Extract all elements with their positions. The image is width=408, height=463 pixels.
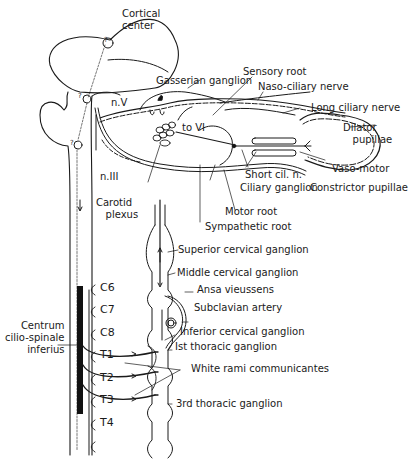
label-carotid-plexus: Carotid plexus: [96, 197, 138, 221]
segment-t2: T2: [100, 372, 114, 383]
label-n-v: n.V: [111, 98, 127, 108]
segment-t4: T4: [100, 417, 114, 428]
oculomotor-nerve-n-iii-inner: [98, 108, 306, 171]
hypothalamic-neuron: [83, 95, 91, 103]
label-long-ciliary-nerve: Long ciliary nerve: [311, 103, 400, 113]
label-constrictor-pupillae: Constrictor pupillae: [310, 183, 408, 193]
sympathetic-to-ciliary: [176, 132, 235, 145]
sulcus-line: [108, 59, 168, 72]
naso-ciliary-nerve-line: [220, 92, 310, 103]
label-centrum-cilio-spinale: Centrum cilio-spinale inferius: [5, 320, 64, 356]
label-to-vi: to VI: [182, 123, 205, 133]
segment-c8: C8: [100, 327, 115, 338]
label-sensory-root: Sensory root: [243, 67, 306, 77]
label-third-thoracic-ganglion: 3rd thoracic ganglion: [176, 399, 283, 409]
cortical-tract-upper: [88, 45, 105, 98]
label-gasserian-ganglion: Gasserian ganglion: [156, 76, 252, 86]
label-inferior-cervical-ganglion: Inferior cervical ganglion: [180, 327, 304, 337]
segment-c7: C7: [100, 304, 115, 315]
segment-t1: T1: [100, 349, 114, 360]
brainstem-outline: [40, 92, 70, 455]
gasserian-ganglion-cell: [158, 96, 163, 101]
label-subclavian-artery: Subclavian artery: [194, 303, 282, 313]
label-short-cil-n: Short cil. n.: [245, 170, 302, 180]
white-rami: [83, 346, 158, 399]
cortical-tract-mid: [78, 103, 87, 140]
short-ciliary-nerve-lower: [252, 150, 296, 156]
carotid-plexus: [153, 122, 176, 146]
label-cortical-center: Cortical center: [122, 8, 160, 32]
n-iii-dashed: [102, 140, 140, 162]
label-vaso-motor: Vaso-motor: [332, 164, 389, 174]
fiber-arrow-up: [158, 248, 162, 262]
label-dilator-pupillae: Dilator pupillae: [343, 122, 392, 146]
question-mark-2: ?: [78, 93, 82, 100]
label-first-thoracic-ganglion: Ist thoracic ganglion: [175, 342, 277, 352]
label-naso-ciliary-nerve: Naso-ciliary nerve: [258, 82, 349, 92]
vaso-motor-ending: [305, 141, 311, 151]
question-mark-3: ?: [70, 140, 74, 147]
label-n-iii: n.III: [100, 172, 118, 182]
brainstem-neuron: [74, 141, 82, 149]
label-sympathetic-root: Sympathetic root: [205, 222, 291, 232]
label-white-rami-communicantes: White rami communicantes: [191, 364, 329, 374]
to-vi-branch: [178, 107, 192, 120]
label-superior-cervical-ganglion: Superior cervical ganglion: [178, 245, 309, 255]
label-middle-cervical-ganglion: Middle cervical ganglion: [177, 268, 298, 278]
subclavian-artery-lumen: [168, 320, 174, 326]
segment-t3: T3: [100, 394, 114, 405]
long-ciliary-nerve-branch: [225, 108, 295, 115]
descending-arrow: [78, 200, 82, 211]
label-ciliary-ganglion: Ciliary ganglion: [240, 183, 318, 193]
label-motor-root: Motor root: [225, 207, 277, 217]
segment-c6: C6: [100, 282, 115, 293]
label-ansa-vieussens: Ansa vieussens: [197, 285, 274, 295]
short-ciliary-nerve-upper: [252, 138, 296, 144]
centrum-cilio-spinale-bar: [77, 286, 83, 414]
question-mark-1: ?: [104, 37, 108, 44]
